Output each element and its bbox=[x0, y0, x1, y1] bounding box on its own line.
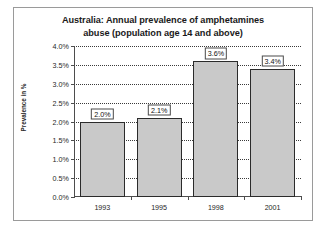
x-tick-label: 1998 bbox=[208, 203, 224, 212]
bar-value-label: 2.1% bbox=[148, 104, 170, 116]
y-tick-mark bbox=[71, 140, 75, 141]
y-tick-label: 2.5% bbox=[53, 98, 69, 107]
x-tick-label: 2001 bbox=[265, 203, 281, 212]
bar bbox=[193, 61, 238, 197]
bar bbox=[250, 69, 295, 197]
y-tick-label: 3.0% bbox=[53, 79, 69, 88]
bar-value-label: 3.6% bbox=[205, 48, 227, 60]
y-tick-mark bbox=[71, 197, 75, 198]
y-tick-label: 1.5% bbox=[53, 136, 69, 145]
y-tick-label: 4.0% bbox=[53, 42, 69, 51]
x-tick-label: 1995 bbox=[151, 203, 167, 212]
y-axis-title: Prevalence in % bbox=[20, 66, 27, 150]
y-tick-mark bbox=[71, 103, 75, 104]
x-tick-mark bbox=[131, 196, 132, 200]
y-tick-label: 0.5% bbox=[53, 174, 69, 183]
y-tick-mark bbox=[71, 65, 75, 66]
bar bbox=[80, 122, 125, 198]
y-tick-mark bbox=[71, 159, 75, 160]
chart-title-line-1: Australia: Annual prevalence of amphetam… bbox=[14, 14, 312, 27]
x-tick-label: 1993 bbox=[94, 203, 110, 212]
bar-value-label: 2.0% bbox=[91, 108, 113, 120]
y-tick-label: 2.0% bbox=[53, 117, 69, 126]
plot-area: 0.0%0.5%1.0%1.5%2.0%2.5%3.0%3.5%4.0% 2.0… bbox=[74, 46, 301, 197]
y-tick-label: 1.0% bbox=[53, 155, 69, 164]
x-tick-mark bbox=[188, 196, 189, 200]
bar bbox=[137, 118, 182, 197]
chart-figure: Australia: Annual prevalence of amphetam… bbox=[13, 7, 313, 221]
chart-title-line-2: abuse (population age 14 and above) bbox=[14, 27, 312, 40]
y-tick-mark bbox=[71, 84, 75, 85]
bar-value-label: 3.4% bbox=[261, 55, 283, 67]
y-tick-mark bbox=[71, 46, 75, 47]
gridline bbox=[74, 46, 301, 47]
y-tick-label: 3.5% bbox=[53, 60, 69, 69]
x-tick-mark bbox=[301, 196, 302, 200]
y-tick-label: 0.0% bbox=[53, 193, 69, 202]
y-tick-mark bbox=[71, 122, 75, 123]
chart-title: Australia: Annual prevalence of amphetam… bbox=[14, 14, 312, 39]
y-tick-mark bbox=[71, 178, 75, 179]
x-tick-mark bbox=[244, 196, 245, 200]
